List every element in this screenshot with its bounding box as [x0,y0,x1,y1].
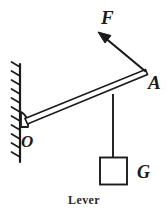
fulcrum-label: O [21,133,33,150]
figure-caption: Lever [0,193,168,208]
lever-diagram-figure: F A O G Lever [0,0,168,216]
lever-end-label: A [148,73,161,92]
wall-hatching-icon [12,62,21,157]
lever-bar [25,70,148,125]
weight-label: G [137,163,150,181]
force-arrow-shaft [104,37,146,72]
weight-block [100,158,127,185]
force-label: F [101,8,114,27]
lever-diagram-svg [0,0,168,216]
